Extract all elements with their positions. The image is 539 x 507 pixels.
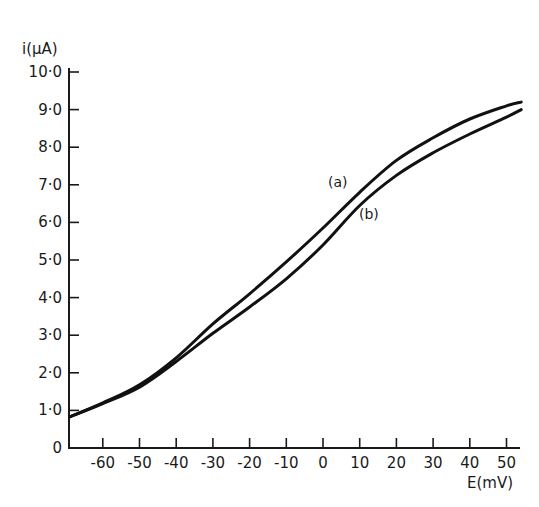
y-tick-label: 2·0 — [38, 364, 62, 382]
x-tick-label: -20 — [237, 454, 262, 472]
x-tick-label: -40 — [164, 454, 189, 472]
series-label-b: (b) — [359, 206, 379, 222]
y-tick-label: 6·0 — [38, 213, 62, 231]
y-tick-label: 5·0 — [38, 251, 62, 269]
y-axis-label: i(μA) — [22, 40, 58, 58]
x-tick-label: 50 — [497, 454, 516, 472]
x-tick-label: 0 — [318, 454, 328, 472]
curves — [70, 102, 521, 417]
y-tick-label: 0 — [52, 439, 62, 457]
x-tick-label: -10 — [274, 454, 299, 472]
x-axis-ticks: -60-50-40-30-20-1001020304050 — [91, 438, 516, 472]
y-tick-label: 7·0 — [38, 176, 62, 194]
y-tick-label: 9·0 — [38, 101, 62, 119]
x-tick-label: 20 — [387, 454, 406, 472]
x-tick-label: -60 — [91, 454, 116, 472]
x-tick-label: 30 — [424, 454, 443, 472]
x-tick-label: -50 — [127, 454, 152, 472]
y-tick-label: 1·0 — [38, 401, 62, 419]
x-tick-label: -30 — [201, 454, 226, 472]
axes — [69, 68, 520, 448]
x-axis-label: E(mV) — [467, 474, 513, 492]
x-tick-label: 40 — [460, 454, 479, 472]
chart: 01·02·03·04·05·06·07·08·09·010·0 -60-50-… — [0, 0, 539, 507]
y-tick-label: 8·0 — [38, 138, 62, 156]
curve-a — [70, 102, 521, 417]
curve-b — [70, 110, 521, 417]
y-tick-label: 4·0 — [38, 289, 62, 307]
y-tick-label: 3·0 — [38, 326, 62, 344]
y-tick-label: 10·0 — [29, 63, 62, 81]
y-axis-ticks: 01·02·03·04·05·06·07·08·09·010·0 — [29, 63, 79, 457]
x-tick-label: 10 — [350, 454, 369, 472]
series-label-a: (a) — [328, 174, 348, 190]
